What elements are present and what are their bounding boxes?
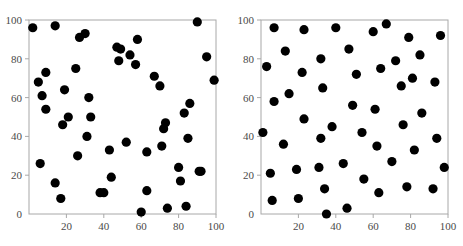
data-point: [262, 62, 271, 71]
y-axis-tick-label: 100: [6, 14, 23, 26]
data-point: [344, 45, 353, 54]
y-axis-tick-label: 60: [243, 92, 255, 104]
data-point: [268, 196, 277, 205]
data-point: [369, 27, 378, 36]
data-point: [318, 83, 327, 92]
y-axis-tick-label: 100: [238, 14, 255, 26]
data-point: [279, 140, 288, 149]
data-point: [316, 134, 325, 143]
left-scatter-plot: 20406080100020406080100: [0, 0, 231, 246]
data-point: [415, 50, 424, 59]
data-point: [51, 21, 60, 30]
data-point: [440, 163, 449, 172]
data-point: [281, 46, 290, 55]
data-point: [193, 17, 202, 26]
data-point: [84, 93, 93, 102]
data-point: [28, 23, 37, 32]
x-axis-tick-label: 80: [173, 220, 185, 232]
data-point: [122, 138, 131, 147]
data-point: [408, 74, 417, 83]
y-axis-tick-label: 60: [11, 92, 23, 104]
data-point: [292, 165, 301, 174]
left-panel: 20406080100020406080100: [0, 0, 231, 246]
right-scatter-plot: 20406080100020406080100: [232, 0, 463, 246]
data-point: [370, 105, 379, 114]
data-point: [137, 207, 146, 216]
data-point: [410, 145, 419, 154]
data-point: [142, 147, 151, 156]
data-point: [71, 64, 80, 73]
data-point: [34, 77, 43, 86]
data-point: [202, 52, 211, 61]
data-point: [51, 178, 60, 187]
data-point: [185, 99, 194, 108]
data-point: [298, 68, 307, 77]
data-point: [294, 194, 303, 203]
data-point: [155, 81, 164, 90]
y-axis-tick-label: 80: [11, 53, 23, 65]
data-point: [105, 145, 114, 154]
x-axis-tick-label: 100: [208, 220, 225, 232]
data-point: [56, 194, 65, 203]
data-point: [322, 209, 331, 218]
data-point: [417, 109, 426, 118]
data-point: [430, 77, 439, 86]
data-point: [359, 174, 368, 183]
data-point: [269, 23, 278, 32]
data-point: [391, 56, 400, 65]
y-axis-tick-label: 20: [11, 169, 23, 181]
data-point: [176, 176, 185, 185]
data-point: [316, 54, 325, 63]
data-point: [372, 142, 381, 151]
data-point: [58, 120, 67, 129]
y-axis-tick-label: 80: [243, 53, 255, 65]
data-point: [183, 134, 192, 143]
x-axis-tick-label: 100: [440, 220, 457, 232]
x-axis-tick-label: 20: [61, 220, 73, 232]
data-point: [41, 105, 50, 114]
data-point: [99, 188, 108, 197]
data-point: [142, 186, 151, 195]
data-point: [399, 120, 408, 129]
data-point: [163, 204, 172, 213]
y-axis-tick-label: 0: [17, 208, 23, 220]
data-point: [116, 45, 125, 54]
data-point: [41, 68, 50, 77]
data-point: [299, 25, 308, 34]
data-point: [125, 50, 134, 59]
x-axis-tick-label: 60: [136, 220, 148, 232]
data-point: [258, 128, 267, 137]
data-point: [107, 173, 116, 182]
data-point: [37, 91, 46, 100]
data-point: [266, 169, 275, 178]
data-point: [376, 64, 385, 73]
data-point: [397, 81, 406, 90]
data-point: [284, 89, 293, 98]
data-point: [64, 112, 73, 121]
data-point: [339, 159, 348, 168]
right-panel: 20406080100020406080100: [232, 0, 463, 246]
data-point: [348, 101, 357, 110]
data-point: [404, 33, 413, 42]
data-point: [73, 151, 82, 160]
data-point: [133, 35, 142, 44]
data-point: [387, 157, 396, 166]
data-point: [299, 114, 308, 123]
data-point: [432, 134, 441, 143]
data-point: [357, 128, 366, 137]
data-point: [269, 97, 278, 106]
y-axis-tick-label: 40: [243, 130, 255, 142]
x-axis-tick-label: 60: [368, 220, 380, 232]
data-point: [157, 142, 166, 151]
y-axis-tick-label: 20: [243, 169, 255, 181]
x-axis-tick-label: 80: [405, 220, 417, 232]
data-point: [331, 23, 340, 32]
data-point: [196, 167, 205, 176]
data-point: [131, 60, 140, 69]
y-axis-tick-label: 0: [249, 208, 255, 220]
data-point: [86, 112, 95, 121]
x-axis-tick-label: 40: [330, 220, 342, 232]
data-point: [82, 132, 91, 141]
scatter-plot-figure: 20406080100020406080100 2040608010002040…: [0, 0, 463, 246]
data-point: [150, 72, 159, 81]
